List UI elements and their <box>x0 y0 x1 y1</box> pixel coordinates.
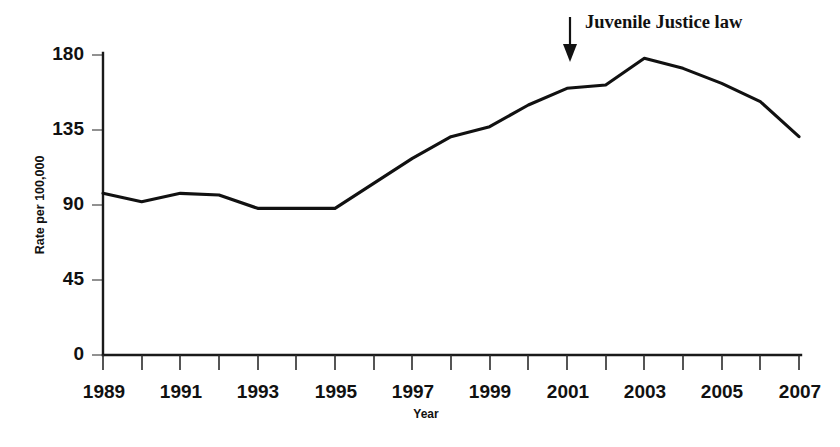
y-tick-label-180: 180 <box>52 43 84 64</box>
y-axis-title: Rate per 100,000 <box>33 156 47 255</box>
data-series-line <box>103 58 799 208</box>
x-tick-label-2005: 2005 <box>701 381 744 402</box>
x-tick-label-1997: 1997 <box>392 381 434 402</box>
annotation-label: Juvenile Justice law <box>585 12 743 32</box>
x-tick-marks <box>103 355 799 370</box>
x-tick-label-1993: 1993 <box>237 381 279 402</box>
line-chart-canvas: Rate per 100,000 180 135 90 45 0 <box>0 0 840 447</box>
y-tick-label-0: 0 <box>73 343 84 364</box>
x-tick-label-1991: 1991 <box>160 381 203 402</box>
x-tick-label-2007: 2007 <box>779 381 821 402</box>
y-tick-label-135: 135 <box>52 118 84 139</box>
x-tick-label-1989: 1989 <box>83 381 125 402</box>
y-tick-label-90: 90 <box>63 193 84 214</box>
y-tick-marks <box>92 55 103 355</box>
x-tick-label-1995: 1995 <box>315 381 358 402</box>
chart-figure: Rate per 100,000 180 135 90 45 0 <box>0 0 840 447</box>
x-tick-label-2001: 2001 <box>547 381 590 402</box>
annotation-arrow-icon <box>563 17 577 62</box>
figure-caption-ghost <box>14 432 826 446</box>
x-tick-label-2003: 2003 <box>624 381 666 402</box>
x-axis-title: Year <box>413 407 439 421</box>
y-tick-label-45: 45 <box>63 268 85 289</box>
x-tick-label-1999: 1999 <box>469 381 511 402</box>
